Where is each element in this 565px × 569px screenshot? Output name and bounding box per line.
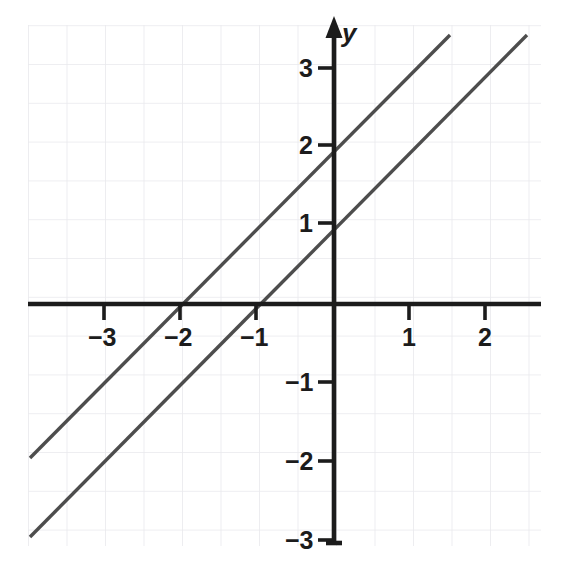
y-axis-label: y (342, 20, 356, 46)
coordinate-plane-svg (0, 0, 565, 569)
x-tick-label-pos1: 1 (402, 325, 416, 350)
y-tick-label-pos3: 3 (299, 56, 313, 81)
graph-figure: y −3 −2 −1 1 2 3 2 1 −1 −2 −3 (0, 0, 565, 569)
y-tick-label-neg1: −1 (285, 370, 314, 395)
y-tick-label-neg3: −3 (285, 528, 314, 553)
x-tick-label-neg1: −1 (240, 325, 269, 350)
y-tick-label-pos1: 1 (299, 211, 313, 236)
y-tick-label-neg2: −2 (285, 449, 314, 474)
x-tick-label-neg3: −3 (88, 325, 117, 350)
x-tick-label-neg2: −2 (164, 325, 193, 350)
y-tick-label-pos2: 2 (299, 133, 313, 158)
x-tick-label-pos2: 2 (478, 325, 492, 350)
